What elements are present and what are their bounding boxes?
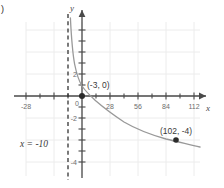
plotted-point-label: (102, -4): [160, 126, 192, 136]
y-tick-label-neg4: -4: [71, 159, 77, 166]
x-tick-label-112: 112: [188, 103, 199, 110]
x-tick-label-56: 56: [134, 103, 142, 110]
grid-lines: [26, 22, 200, 176]
y-tick-label-neg2: -2: [71, 115, 77, 122]
asymptote-label: x = -10: [19, 139, 48, 149]
corner-mark: ): [1, 4, 4, 14]
y-axis-label: y: [69, 3, 74, 13]
y-tick-label-0: 0: [75, 100, 79, 107]
x-tick-label-neg28: -28: [21, 103, 31, 110]
coordinate-plane: -28 28 56 84 112 2 0 -2 -4 x y (-3, 0) (…: [0, 0, 224, 188]
x-axis-label: x: [205, 103, 210, 113]
x-tick-label-84: 84: [162, 103, 170, 110]
graph-figure: -28 28 56 84 112 2 0 -2 -4 x y (-3, 0) (…: [0, 0, 224, 188]
x-axis: [14, 93, 206, 100]
plotted-point-marker: [173, 137, 179, 143]
x-intercept-label: (-3, 0): [87, 80, 110, 90]
x-intercept-point: [79, 93, 85, 99]
x-tick-label-28: 28: [106, 103, 114, 110]
y-tick-label-2: 2: [73, 71, 77, 78]
